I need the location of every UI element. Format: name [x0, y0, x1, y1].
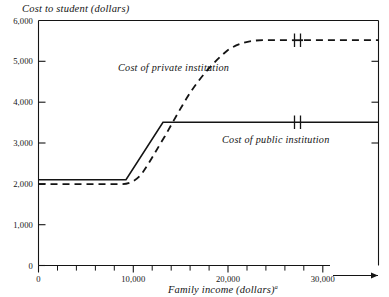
y-label-2000: 2,000 — [13, 179, 33, 189]
y-label-4000: 4,000 — [13, 97, 33, 107]
cost-to-student-chart: Cost to student (dollars) — [0, 0, 389, 297]
x-label-0: 0 — [36, 274, 40, 284]
y-axis-tick-labels: 0 1,000 2,000 3,000 4,000 5,000 6,000 — [13, 16, 33, 271]
x-axis-title-text: Family income (dollars) — [167, 284, 275, 296]
x-axis-arrow-head — [371, 272, 378, 278]
private-institution-break-mark — [292, 33, 303, 47]
y-label-3000: 3,000 — [13, 138, 33, 148]
y-label-5000: 5,000 — [13, 56, 33, 66]
y-label-1000: 1,000 — [13, 220, 33, 230]
y-axis-right-ticks — [372, 61, 379, 143]
x-axis-tick-labels: 0 10,000 20,000 30,000 — [36, 274, 335, 284]
chart-screenshot: Cost to student (dollars) — [0, 0, 389, 297]
y-axis-ticks — [39, 61, 46, 265]
series-private-institution — [39, 33, 379, 184]
public-series-label: Cost of public institution — [222, 134, 330, 145]
x-axis-ticks — [39, 266, 323, 273]
public-institution-line — [39, 122, 379, 180]
x-label-30000: 30,000 — [311, 274, 335, 284]
y-axis-title: Cost to student (dollars) — [22, 3, 130, 15]
y-label-0: 0 — [29, 261, 33, 271]
x-label-10000: 10,000 — [121, 274, 145, 284]
x-axis-title: Family income (dollars)a — [167, 284, 278, 296]
y-label-6000: 6,000 — [13, 16, 33, 26]
x-axis-title-superscript: a — [275, 284, 278, 290]
x-label-20000: 20,000 — [216, 274, 240, 284]
private-series-label: Cost of private institution — [118, 62, 229, 73]
series-public-institution — [39, 116, 379, 180]
